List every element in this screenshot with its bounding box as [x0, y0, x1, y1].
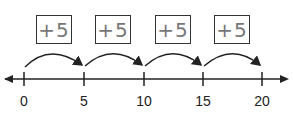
- jump-arcs: [25, 54, 260, 67]
- jump-label-box-1: +5: [36, 15, 72, 44]
- tick-label-0: 0: [20, 93, 28, 109]
- jump-label-box-3: +5: [155, 15, 191, 44]
- jump-label-box-4: +5: [214, 15, 250, 44]
- tick-label-15: 15: [195, 93, 211, 109]
- tick-label-5: 5: [80, 93, 88, 109]
- right-arrow-icon: [280, 75, 289, 83]
- tick-label-20: 20: [254, 93, 270, 109]
- left-arrow-icon: [4, 75, 13, 83]
- tick-label-10: 10: [136, 93, 152, 109]
- jump-label-box-2: +5: [95, 15, 131, 44]
